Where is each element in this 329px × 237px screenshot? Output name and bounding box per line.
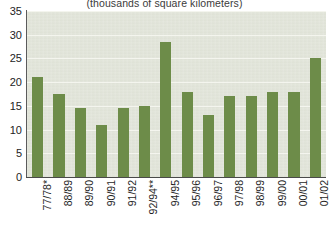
y-tick-label: 20 — [10, 77, 22, 88]
x-tick-label: 91/92 — [127, 180, 138, 206]
bar — [267, 92, 278, 177]
y-tick-label: 35 — [10, 6, 22, 17]
x-axis-spine — [26, 177, 326, 178]
x-tick-label: 94/95 — [170, 180, 181, 206]
x-tick-label: 97/98 — [234, 180, 245, 206]
y-tick-label: 15 — [10, 100, 22, 111]
bar — [246, 96, 257, 177]
bar — [203, 115, 214, 177]
y-tick-label: 0 — [16, 172, 22, 183]
bar — [139, 106, 150, 177]
y-tick-label: 25 — [10, 53, 22, 64]
bar — [182, 92, 193, 177]
x-tick-label: 89/90 — [84, 180, 95, 206]
bar-chart: (thousands of square kilometers) 0510152… — [0, 0, 329, 237]
x-axis: 77/78*88/8989/9090/9191/9292/94**94/9595… — [27, 180, 326, 237]
y-tick-label: 10 — [10, 124, 22, 135]
bars-layer — [27, 11, 326, 177]
x-tick-label: 98/99 — [255, 180, 266, 206]
bar — [224, 96, 235, 177]
bar — [160, 42, 171, 177]
bar — [53, 94, 64, 177]
bar — [118, 108, 129, 177]
y-tick-label: 30 — [10, 29, 22, 40]
bar — [32, 77, 43, 177]
x-tick-label: 99/00 — [277, 180, 288, 206]
bar — [310, 58, 321, 177]
x-tick-label: 01/02 — [319, 180, 329, 206]
bar — [75, 108, 86, 177]
x-tick-label: 00/01 — [298, 180, 309, 206]
bar — [288, 92, 299, 177]
x-tick-label: 95/96 — [191, 180, 202, 206]
x-tick-label: 90/91 — [106, 180, 117, 206]
x-tick-label: 92/94** — [148, 180, 159, 214]
x-tick-label: 77/78* — [42, 180, 53, 210]
x-tick-label: 96/97 — [213, 180, 224, 206]
x-tick-label: 88/89 — [63, 180, 74, 206]
chart-title: (thousands of square kilometers) — [0, 0, 329, 9]
y-tick-label: 5 — [16, 148, 22, 159]
bar — [96, 125, 107, 177]
y-axis: 05101520253035 — [0, 0, 26, 237]
